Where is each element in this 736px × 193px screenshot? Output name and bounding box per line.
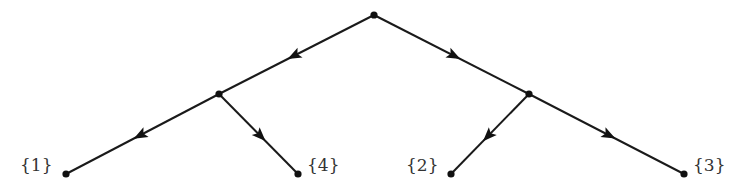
node-right — [525, 90, 532, 97]
arrow-icon — [445, 48, 462, 64]
nodes — [62, 11, 687, 177]
leaf-label-3: {3} — [693, 157, 725, 174]
arrow-icon — [600, 127, 617, 143]
node-leaf2 — [447, 170, 454, 177]
edges — [66, 15, 684, 174]
leaf-label-1: {1} — [20, 157, 52, 174]
node-leaf3 — [680, 170, 687, 177]
leaf-label-4: {4} — [307, 157, 339, 174]
node-leaf1 — [62, 170, 69, 177]
leaf-label-2: {2} — [406, 157, 438, 174]
node-left — [215, 90, 222, 97]
node-leaf4 — [294, 170, 301, 177]
arrow-icon — [131, 127, 149, 143]
arrow-icon — [285, 48, 302, 64]
node-root — [370, 11, 377, 18]
arrowheads — [131, 48, 618, 145]
tree-diagram — [0, 0, 736, 193]
